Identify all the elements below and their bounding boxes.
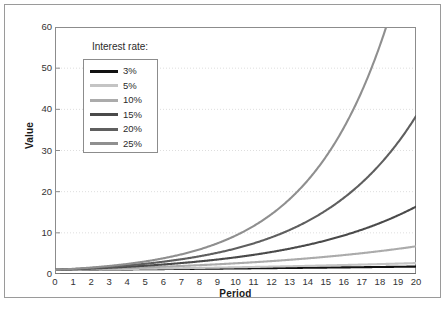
legend-item: 3% (84, 64, 157, 79)
x-tick-label: 8 (189, 277, 209, 287)
legend-item: 15% (84, 108, 157, 123)
x-tick-label: 10 (226, 277, 246, 287)
chart-figure: 0102030405060 Value 01234567891011121314… (0, 0, 446, 322)
x-tick-label: 14 (298, 277, 318, 287)
x-tick-label: 7 (171, 277, 191, 287)
x-tick-label: 19 (388, 277, 408, 287)
legend-line-swatch (90, 70, 118, 73)
legend-line-swatch (90, 128, 118, 131)
legend-line-swatch (90, 99, 118, 102)
x-tick-label: 15 (316, 277, 336, 287)
y-tick-label: 60 (6, 22, 52, 32)
legend-line-swatch (90, 142, 118, 145)
x-tick-label: 6 (153, 277, 173, 287)
y-tick-label: 20 (6, 187, 52, 197)
x-tick-label: 18 (370, 277, 390, 287)
legend-item: 5% (84, 79, 157, 94)
y-tick-label: 10 (6, 228, 52, 238)
x-tick-label: 20 (406, 277, 426, 287)
x-tick-label: 9 (207, 277, 227, 287)
legend-item: 10% (84, 93, 157, 108)
legend-item-label: 3% (123, 66, 137, 76)
legend-item-label: 20% (123, 124, 142, 134)
x-tick-label: 17 (352, 277, 372, 287)
x-tick-label: 3 (99, 277, 119, 287)
x-tick-label: 2 (81, 277, 101, 287)
legend-item-label: 10% (123, 95, 142, 105)
legend-item: 25% (84, 137, 157, 152)
x-tick-label: 12 (262, 277, 282, 287)
legend-item-label: 5% (123, 81, 137, 91)
legend-line-swatch (90, 113, 118, 116)
legend-item-label: 25% (123, 139, 142, 149)
x-tick-label: 1 (63, 277, 83, 287)
legend-item: 20% (84, 122, 157, 137)
chart-legend: 3%5%10%15%20%25% (83, 59, 158, 153)
x-tick-label: 0 (45, 277, 65, 287)
legend-line-swatch (90, 84, 118, 87)
x-tick-label: 4 (117, 277, 137, 287)
x-tick-label: 5 (135, 277, 155, 287)
legend-title: Interest rate: (60, 41, 180, 52)
legend-item-label: 15% (123, 110, 142, 120)
y-axis-label: Value (24, 106, 35, 166)
y-tick-label: 50 (6, 63, 52, 73)
x-tick-label: 11 (244, 277, 264, 287)
x-tick-label: 16 (334, 277, 354, 287)
x-axis-label: Period (55, 288, 416, 299)
x-tick-label: 13 (280, 277, 300, 287)
